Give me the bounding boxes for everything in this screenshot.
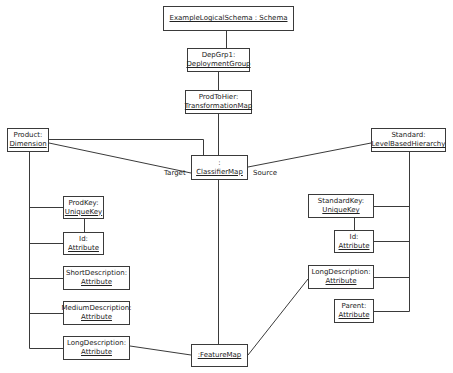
node-featuremap[interactable]: :FeatureMap bbox=[191, 344, 248, 367]
node-type: Attribute bbox=[326, 277, 357, 286]
node-name: ProdKey: bbox=[68, 199, 98, 208]
edge-featuremap-std-longdesc bbox=[248, 279, 308, 355]
node-type: Attribute bbox=[339, 311, 370, 320]
node-name: ShortDescription: bbox=[66, 269, 127, 278]
node-type: Attribute bbox=[81, 278, 112, 287]
role-label-target: Target bbox=[164, 169, 186, 177]
node-name: Id: bbox=[350, 233, 359, 242]
node-name: LongDescription: bbox=[67, 339, 126, 348]
node-name: Parent: bbox=[342, 302, 367, 311]
node-name: Product: bbox=[14, 131, 43, 140]
node-classifiermap[interactable]: : ClassifierMap bbox=[191, 155, 248, 180]
node-name: LongDescription: bbox=[311, 268, 370, 277]
node-depgrp[interactable]: DepGrp1: DeploymentGroup bbox=[187, 48, 250, 72]
uml-object-diagram: ExampleLogicalSchema : Schema DepGrp1: D… bbox=[0, 0, 453, 373]
node-name: : bbox=[218, 159, 220, 168]
node-mediumdesc[interactable]: MediumDescription: Attribute bbox=[63, 301, 130, 325]
node-type: ExampleLogicalSchema : Schema bbox=[170, 14, 288, 23]
node-type: Attribute bbox=[81, 313, 112, 322]
node-name: DepGrp1: bbox=[202, 51, 236, 60]
edge-product-classifiermap bbox=[49, 140, 204, 156]
node-type: :FeatureMap bbox=[198, 351, 242, 360]
node-name: Standard: bbox=[391, 131, 425, 140]
node-type: Dimension bbox=[9, 140, 46, 149]
role-label-source: Source bbox=[253, 169, 277, 177]
node-standardkey[interactable]: StandardKey: UniqueKey bbox=[308, 194, 374, 218]
node-prod-id[interactable]: Id: Attribute bbox=[63, 232, 104, 255]
node-name: Id: bbox=[79, 235, 88, 244]
node-type: UniqueKey bbox=[65, 208, 102, 217]
node-type: TransformationMap bbox=[185, 102, 252, 111]
node-type: Attribute bbox=[81, 348, 112, 357]
edge-classifiermap-standard-source bbox=[248, 143, 371, 167]
node-parent[interactable]: Parent: Attribute bbox=[334, 299, 374, 323]
node-product[interactable]: Product: Dimension bbox=[7, 128, 49, 152]
node-type: ClassifierMap bbox=[196, 168, 243, 177]
node-name: ProdToHier: bbox=[199, 93, 239, 102]
node-std-id[interactable]: Id: Attribute bbox=[334, 230, 374, 253]
node-name: StandardKey: bbox=[318, 197, 364, 206]
node-type: DeploymentGroup bbox=[186, 60, 250, 69]
node-standard[interactable]: Standard: LevelBasedHierarchy bbox=[371, 128, 446, 152]
node-type: Attribute bbox=[68, 244, 99, 253]
node-prod-longdesc[interactable]: LongDescription: Attribute bbox=[63, 336, 130, 360]
edge-longdesc-featuremap bbox=[130, 346, 191, 355]
node-type: LevelBasedHierarchy bbox=[372, 140, 446, 149]
node-prodtohier[interactable]: ProdToHier: TransformationMap bbox=[185, 90, 252, 114]
node-type: UniqueKey bbox=[322, 206, 359, 215]
node-prodkey[interactable]: ProdKey: UniqueKey bbox=[63, 196, 104, 219]
node-std-longdesc[interactable]: LongDescription: Attribute bbox=[308, 265, 374, 289]
node-type: Attribute bbox=[339, 242, 370, 251]
node-shortdesc[interactable]: ShortDescription: Attribute bbox=[63, 266, 130, 290]
node-name: MediumDescription: bbox=[61, 304, 131, 313]
node-schema[interactable]: ExampleLogicalSchema : Schema bbox=[163, 6, 294, 31]
